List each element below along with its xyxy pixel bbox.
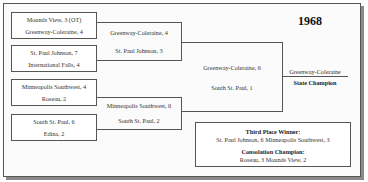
year-title: 1968	[298, 14, 322, 29]
semifinal-1-team1: Greenway-Coleraine, 4	[97, 29, 181, 36]
team-score: Roseau, 2	[12, 95, 96, 102]
connector	[97, 129, 182, 130]
semifinal-2-team2: South St. Paul, 2	[97, 117, 181, 124]
round1-game-1: Mounds View, 3 (OT) Greenway-Coleraine, …	[11, 12, 97, 39]
semifinal-1-team2: St. Paul Johnson, 3	[97, 47, 181, 54]
team-score: South St. Paul, 6	[12, 118, 96, 125]
round1-game-4: South St. Paul, 6 Edina, 2	[11, 114, 97, 141]
team-score: Minneapolis Southwest, 4	[12, 83, 96, 90]
round1-game-2: St. Paul Johnson, 7 International Falls,…	[11, 45, 97, 72]
consolation-result: Roseau, 3 Mounds View, 2	[196, 156, 350, 163]
connector	[97, 97, 182, 98]
third-place-result: St. Paul Johnson, 6 Minneapolis Southwes…	[196, 136, 350, 143]
third-place-label: Third Place Winner:	[196, 128, 350, 135]
champion-label: State Champion	[283, 79, 347, 86]
consolation-label: Consolation Champion:	[196, 148, 350, 155]
connector	[181, 111, 283, 112]
team-score: Greenway-Coleraine, 4	[12, 28, 96, 35]
final-team2: South St. Paul, 1	[184, 84, 280, 91]
connector	[181, 22, 182, 60]
team-score: Mounds View, 3 (OT)	[12, 16, 96, 23]
connector	[282, 76, 348, 77]
team-score: International Falls, 4	[12, 61, 96, 68]
connector	[181, 97, 182, 129]
team-score: Edina, 2	[12, 130, 96, 137]
champion-team: Greenway-Coleraine	[283, 68, 347, 75]
results-box: Third Place Winner: St. Paul Johnson, 6 …	[195, 122, 351, 167]
connector	[181, 42, 283, 43]
semifinal-2-team1: Minneapolis Southwest, 0	[97, 102, 181, 109]
team-score: St. Paul Johnson, 7	[12, 49, 96, 56]
final-team1: Greenway-Coleraine, 6	[184, 64, 280, 71]
round1-game-3: Minneapolis Southwest, 4 Roseau, 2	[11, 79, 97, 106]
connector	[97, 60, 182, 61]
connector	[97, 22, 182, 23]
